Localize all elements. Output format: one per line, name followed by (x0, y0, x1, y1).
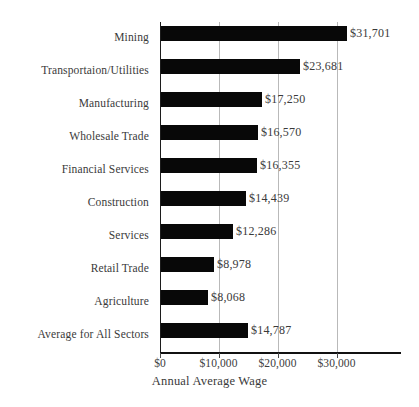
bar-value-label: $31,701 (350, 26, 390, 41)
bar-value-label: $23,681 (303, 59, 343, 74)
bar-services (161, 224, 233, 239)
bar-value-label: $12,286 (236, 224, 276, 239)
bar-value-label: $16,355 (260, 158, 300, 173)
category-label: Agriculture (94, 295, 149, 307)
bar-value-label: $14,787 (251, 323, 291, 338)
x-tick-label: $20,000 (246, 357, 310, 369)
category-label: Retail Trade (91, 262, 149, 274)
category-label: Services (109, 229, 149, 241)
bar-transportation-utilities (161, 59, 300, 74)
x-axis-title: Annual Average Wage (0, 374, 419, 389)
category-label: Mining (114, 31, 149, 43)
category-axis-labels: Mining Transportaion/Utilities Manufactu… (0, 0, 155, 407)
bar-retail-trade (161, 257, 214, 272)
category-label: Construction (88, 196, 149, 208)
bar-value-label: $16,570 (261, 125, 301, 140)
bar-value-label: $8,068 (211, 290, 245, 305)
bar-wholesale-trade (161, 125, 258, 140)
bar-agriculture (161, 290, 208, 305)
category-label: Wholesale Trade (69, 130, 149, 142)
x-tick-label: $10,000 (187, 357, 251, 369)
bar-construction (161, 191, 246, 206)
x-tick-label: $0 (140, 357, 180, 369)
category-label: Financial Services (62, 163, 149, 175)
bar-financial-services (161, 158, 257, 173)
bar-value-label: $14,439 (249, 191, 289, 206)
bar-average-all-sectors (161, 323, 248, 338)
category-label: Manufacturing (79, 97, 149, 109)
x-tick-label: $30,000 (305, 357, 369, 369)
bar-chart: Mining Transportaion/Utilities Manufactu… (0, 0, 419, 407)
x-axis-line (160, 352, 401, 354)
category-label: Average for All Sectors (38, 328, 150, 340)
category-label: Transportaion/Utilities (41, 64, 149, 76)
bar-value-label: $17,250 (265, 92, 305, 107)
bar-mining (161, 26, 347, 41)
bar-value-label: $8,978 (217, 257, 251, 272)
bar-manufacturing (161, 92, 262, 107)
